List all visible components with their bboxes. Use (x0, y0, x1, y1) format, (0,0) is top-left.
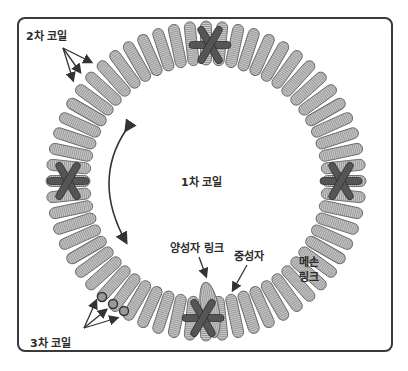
primary-coil-arrow (109, 130, 126, 242)
tertiary-coil-circle (98, 293, 107, 302)
neutron-arrow (233, 265, 247, 290)
primary-coil-label: 1차 코일 (181, 176, 222, 189)
meson-link-label-line1: 메손 (299, 256, 319, 269)
tertiary-coil-circle (109, 300, 118, 309)
secondary-coil-label: 2차 코일 (26, 30, 67, 43)
neutron-label: 중성자 (234, 250, 264, 263)
meson-link-label-line2: 링크 (299, 271, 319, 284)
tertiary-coil-label: 3차 코일 (30, 337, 71, 350)
proton-link-arrow (199, 257, 206, 276)
tertiary-coil-circle (120, 307, 129, 316)
proton-link-label: 양성자 링크 (170, 242, 224, 255)
